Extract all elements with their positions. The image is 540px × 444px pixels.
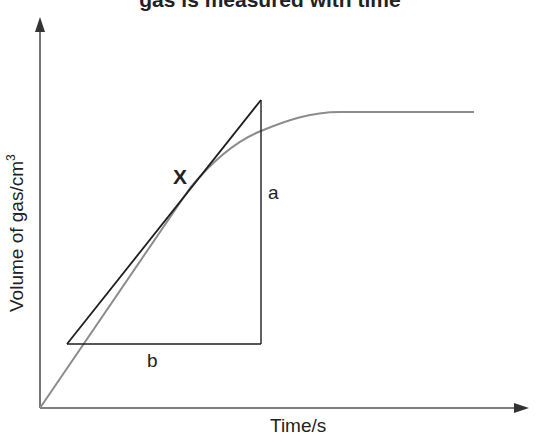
- volume-curve: [40, 112, 474, 408]
- rise-a-label: a: [268, 183, 279, 202]
- tangent-line: [67, 100, 261, 344]
- y-axis-label-sup: 3: [4, 154, 18, 161]
- run-b-label: b: [147, 351, 158, 370]
- x-axis: [40, 403, 529, 413]
- y-axis-label-main: Volume of gas/cm: [6, 161, 27, 312]
- plot-area: [0, 0, 540, 444]
- diagram-stage: gas is measured with time X a b Time/s V…: [0, 0, 540, 444]
- y-axis-arrow-icon: [35, 17, 45, 32]
- x-axis-arrow-icon: [514, 403, 529, 413]
- x-axis-label: Time/s: [270, 416, 326, 435]
- gradient-triangle: [67, 100, 261, 344]
- y-axis: [35, 17, 45, 408]
- point-x-label: X: [173, 166, 187, 187]
- y-axis-label: Volume of gas/cm3: [4, 154, 28, 312]
